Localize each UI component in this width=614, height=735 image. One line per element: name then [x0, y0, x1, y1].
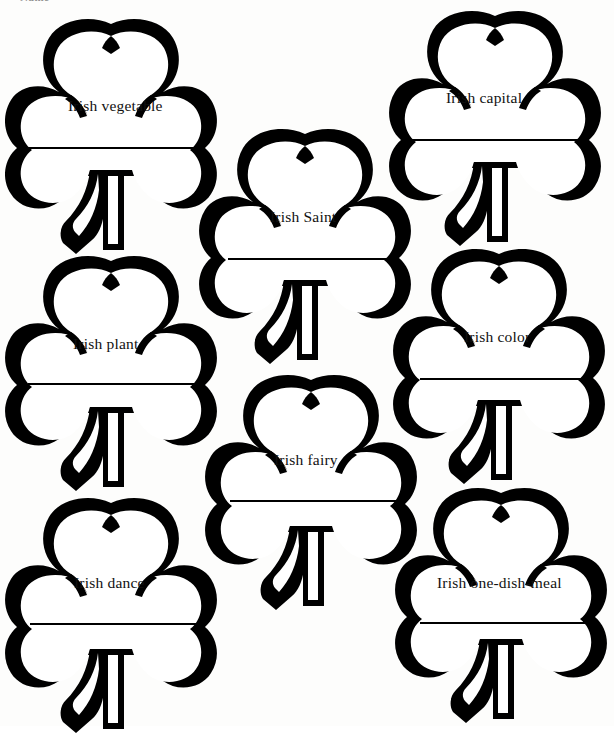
answer-line-irish-saint[interactable] [228, 258, 398, 260]
shamrock-label-irish-dance: Irish dance [74, 575, 145, 591]
answer-line-irish-dance[interactable] [30, 623, 200, 625]
shamrock-label-irish-plant: Irish plant [73, 336, 138, 352]
answer-line-irish-capital[interactable] [408, 139, 578, 141]
answer-line-irish-fairy[interactable] [230, 500, 400, 502]
shamrock-label-irish-capital: Irish capital [446, 90, 522, 106]
shamrock-label-irish-one-dish-meal: Irish one-dish-meal [437, 575, 562, 591]
answer-line-irish-one-dish-meal[interactable] [420, 622, 590, 624]
shamrock-label-irish-saint: Irish Saint [270, 209, 336, 225]
answer-line-irish-vegetable[interactable] [26, 147, 196, 149]
shamrock-label-irish-vegetable: Irish vegetable [68, 98, 163, 114]
answer-line-irish-color[interactable] [420, 378, 590, 380]
shamrock-label-irish-fairy: Irish fairy [274, 452, 338, 468]
clipped-header-text: Name [20, 0, 50, 3]
answer-line-irish-plant[interactable] [28, 383, 198, 385]
shamrock-label-irish-color: Irish color [464, 329, 530, 345]
